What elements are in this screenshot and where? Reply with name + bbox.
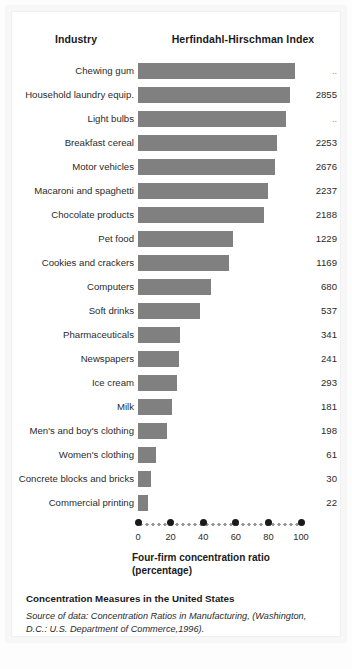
row-industry-label: Newspapers [12, 347, 134, 371]
bar-track [138, 227, 301, 251]
bar [138, 87, 290, 103]
bar-track [138, 131, 301, 155]
row-industry-label: Light bulbs [12, 107, 134, 131]
bar [138, 351, 179, 367]
bar [138, 231, 233, 247]
bar [138, 423, 167, 439]
row-industry-label: Concrete blocks and bricks [12, 467, 134, 491]
row-hhi-value: 61 [301, 443, 337, 467]
axis-tick-dot [298, 519, 305, 526]
chart-row: Women's clothing61 [12, 443, 340, 467]
chart-page: Industry Herfindahl-Hirschman Index Chew… [0, 0, 352, 669]
axis-tick-label: 60 [219, 532, 253, 542]
chart-row: Motor vehicles2676 [12, 155, 340, 179]
chart-row: Concrete blocks and bricks30 [12, 467, 340, 491]
row-hhi-value: 198 [301, 419, 337, 443]
row-industry-label: Pharmaceuticals [12, 323, 134, 347]
chart-rows: Chewing gum..Household laundry equip.285… [12, 59, 340, 515]
row-industry-label: Chocolate products [12, 203, 134, 227]
row-industry-label: Men's and boy's clothing [12, 419, 134, 443]
row-hhi-value: 2855 [301, 83, 337, 107]
bar-track [138, 59, 301, 83]
chart-row: Breakfast cereal2253 [12, 131, 340, 155]
bar [138, 471, 151, 487]
bar-track [138, 323, 301, 347]
bar-track [138, 371, 301, 395]
bar [138, 111, 286, 127]
bar [138, 135, 277, 151]
row-industry-label: Motor vehicles [12, 155, 134, 179]
caption-title: Concentration Measures in the United Sta… [26, 593, 326, 604]
row-hhi-value: 22 [301, 491, 337, 515]
chart-frame: Industry Herfindahl-Hirschman Index Chew… [11, 11, 341, 637]
header-hhi: Herfindahl-Hirschman Index [146, 33, 340, 45]
bar-track [138, 467, 301, 491]
row-industry-label: Women's clothing [12, 443, 134, 467]
bar-track [138, 107, 301, 131]
axis-tick-label: 0 [121, 532, 155, 542]
bar-track [138, 203, 301, 227]
bar-track [138, 179, 301, 203]
axis-dotted-line [138, 523, 301, 526]
bar-track [138, 251, 301, 275]
bar [138, 375, 177, 391]
row-industry-label: Commercial printing [12, 491, 134, 515]
row-hhi-value: 2676 [301, 155, 337, 179]
bar [138, 255, 229, 271]
axis-title-line1: Four-firm concentration ratio [132, 551, 340, 564]
axis-tick-label: 100 [284, 532, 318, 542]
axis-tick-dot [265, 519, 272, 526]
axis-title: Four-firm concentration ratio (percentag… [12, 551, 340, 577]
bar [138, 159, 275, 175]
row-industry-label: Chewing gum [12, 59, 134, 83]
chart-row: Chocolate products2188 [12, 203, 340, 227]
header-industry: Industry [12, 33, 140, 45]
bar [138, 183, 268, 199]
row-hhi-value: 181 [301, 395, 337, 419]
chart-row: Newspapers241 [12, 347, 340, 371]
x-axis: 020406080100 [12, 517, 340, 547]
row-hhi-value: 680 [301, 275, 337, 299]
chart-row: Ice cream293 [12, 371, 340, 395]
chart-row: Commercial printing22 [12, 491, 340, 515]
row-industry-label: Milk [12, 395, 134, 419]
column-headers: Industry Herfindahl-Hirschman Index [12, 27, 340, 57]
chart-row: Chewing gum.. [12, 59, 340, 83]
bar-track [138, 347, 301, 371]
row-industry-label: Macaroni and spaghetti [12, 179, 134, 203]
bar [138, 327, 180, 343]
row-industry-label: Household laundry equip. [12, 83, 134, 107]
chart-row: Soft drinks537 [12, 299, 340, 323]
chart-row: Cookies and crackers1169 [12, 251, 340, 275]
bar-track [138, 395, 301, 419]
row-industry-label: Cookies and crackers [12, 251, 134, 275]
caption-block: Concentration Measures in the United Sta… [12, 593, 340, 636]
bar-track [138, 419, 301, 443]
row-hhi-value: 2188 [301, 203, 337, 227]
chart-row: Pharmaceuticals341 [12, 323, 340, 347]
bar [138, 207, 264, 223]
chart-row: Men's and boy's clothing198 [12, 419, 340, 443]
row-industry-label: Breakfast cereal [12, 131, 134, 155]
bar [138, 447, 156, 463]
bar [138, 495, 148, 511]
row-hhi-value: 341 [301, 323, 337, 347]
row-industry-label: Ice cream [12, 371, 134, 395]
row-hhi-value: 30 [301, 467, 337, 491]
axis-tick-dot [200, 519, 207, 526]
axis-tick-dot [135, 519, 142, 526]
row-hhi-value: 1229 [301, 227, 337, 251]
row-hhi-value: 2237 [301, 179, 337, 203]
bar [138, 303, 200, 319]
chart-row: Computers680 [12, 275, 340, 299]
chart-row: Milk181 [12, 395, 340, 419]
row-hhi-value: .. [301, 59, 337, 83]
bar [138, 399, 172, 415]
row-industry-label: Soft drinks [12, 299, 134, 323]
row-hhi-value: 293 [301, 371, 337, 395]
row-hhi-value: 241 [301, 347, 337, 371]
bar [138, 63, 295, 79]
row-industry-label: Computers [12, 275, 134, 299]
row-hhi-value: .. [301, 107, 337, 131]
bar-track [138, 83, 301, 107]
